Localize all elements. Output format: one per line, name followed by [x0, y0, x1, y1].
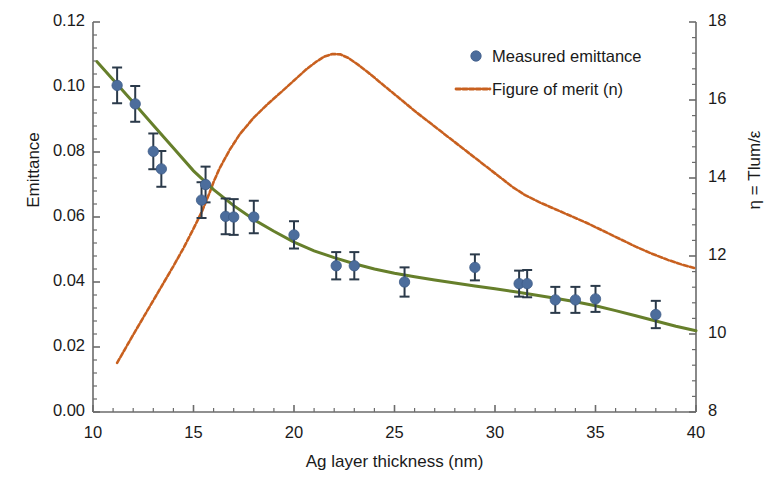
y-tick-label-left: 0.02: [27, 336, 85, 355]
y-tick-label-left: 0.00: [27, 401, 85, 420]
x-tick-label: 15: [168, 423, 220, 442]
legend-label-figure-of-merit: Figure of merit (n): [492, 80, 623, 99]
figure-emittance-vs-ag-thickness: 0.000.020.040.060.080.100.12810121416181…: [0, 0, 782, 488]
y-tick-label-left: 0.12: [27, 11, 85, 30]
y-tick-label-right: 10: [708, 323, 742, 342]
y-tick-label-right: 12: [708, 245, 742, 264]
x-tick-label: 10: [67, 423, 119, 442]
x-tick-label: 35: [570, 423, 622, 442]
y-tick-label-right: 8: [708, 401, 742, 420]
y-tick-label-right: 14: [708, 167, 742, 186]
x-axis-label: Ag layer thickness (nm): [93, 452, 696, 472]
y-axis-label-left: Emittance: [24, 110, 44, 230]
x-tick-label: 25: [369, 423, 421, 442]
y-tick-label-left: 0.04: [27, 271, 85, 290]
y-tick-label-right: 18: [708, 11, 742, 30]
plot-canvas: [0, 0, 782, 488]
y-tick-label-left: 0.10: [27, 76, 85, 95]
x-tick-label: 30: [469, 423, 521, 442]
y-axis-label-right: η = Tlum/ε: [745, 110, 765, 230]
legend-markers: [456, 51, 490, 89]
legend-label-measured-emittance: Measured emittance: [492, 47, 642, 66]
x-tick-label: 20: [268, 423, 320, 442]
series-emittance-fit-line: [97, 62, 696, 331]
x-tick-label: 40: [670, 423, 722, 442]
y-tick-label-right: 16: [708, 89, 742, 108]
series-measured-emittance-errorbars: [112, 68, 661, 329]
series-measured-emittance-points: [112, 80, 661, 320]
series-figure-of-merit-line: [117, 54, 696, 363]
